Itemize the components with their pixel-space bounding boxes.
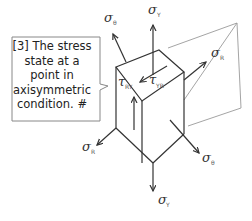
sigma-theta-top-label: σ θ [104,10,117,26]
sigma-r-left-label: σ R [82,139,95,155]
svg-text:Y: Y [165,201,170,208]
sigma-y-bottom-label: σ Y [158,192,170,208]
sigma-y-top-label: σ Y [148,2,161,18]
svg-text:R: R [91,148,95,155]
svg-text:YR: YR [155,82,164,89]
svg-text:Y: Y [156,11,161,18]
sigma-theta-bottom-label: σ θ [202,150,215,166]
svg-text:θ: θ [113,19,117,26]
svg-text:R: R [220,54,224,61]
stress-cube [116,50,184,163]
stress-arrows [97,25,206,191]
callout-text: [3] The stress state at a point in axisy… [12,39,92,112]
sigma-r-right-label: σ R [211,45,224,61]
svg-text:RY: RY [125,83,133,90]
svg-text:θ: θ [211,159,215,166]
